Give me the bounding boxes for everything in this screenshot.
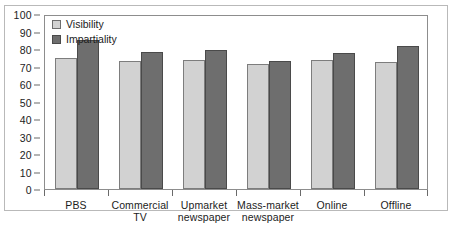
x-axis-category-label: PBS (65, 199, 86, 211)
y-axis-tick-mark (34, 102, 40, 103)
x-axis-category-label: Commercial TV (111, 199, 168, 223)
chart-legend: Visibility Impartiality (52, 18, 117, 46)
y-axis-tick-mark (34, 50, 40, 51)
y-axis-tick-label: 60 (20, 80, 32, 91)
bar-visibility (119, 61, 141, 189)
x-axis-tick-mark (172, 190, 173, 196)
y-axis-tick-mark (34, 32, 40, 33)
x-axis-tick-mark (427, 190, 428, 196)
y-axis-tick-label: 90 (20, 27, 32, 38)
bar-chart-figure: 0102030405060708090100 PBSCommercial TVU… (0, 0, 452, 233)
bar-impartiality (77, 40, 99, 189)
legend-swatch-impartiality (52, 35, 61, 44)
y-axis-tick-mark (34, 15, 40, 16)
bar-impartiality (141, 52, 163, 189)
y-axis-tick-mark (34, 67, 40, 68)
legend-label-visibility: Visibility (66, 19, 104, 30)
legend-entry-visibility: Visibility (52, 18, 117, 31)
bar-visibility (183, 60, 205, 189)
x-axis-category-label: Upmarket newspaper (178, 199, 230, 223)
x-axis: PBSCommercial TVUpmarket newspaperMass-m… (44, 190, 428, 233)
y-axis-tick-mark (34, 137, 40, 138)
x-axis-tick-mark (300, 190, 301, 196)
y-axis-tick-mark (34, 172, 40, 173)
y-axis-tick-label: 40 (20, 115, 32, 126)
y-axis-tick-label: 100 (14, 10, 32, 21)
y-axis-tick-label: 30 (20, 132, 32, 143)
x-axis-category-label: Mass-market newspaper (237, 199, 299, 223)
x-axis-tick-mark (236, 190, 237, 196)
y-axis-tick-mark (34, 190, 40, 191)
bar-impartiality (333, 53, 355, 189)
bar-impartiality (397, 46, 419, 190)
x-axis-tick-mark (44, 190, 45, 196)
y-axis-tick-label: 20 (20, 150, 32, 161)
bar-visibility (311, 60, 333, 189)
legend-label-impartiality: Impartiality (66, 34, 117, 45)
y-axis-tick-label: 80 (20, 45, 32, 56)
y-axis-tick-label: 0 (26, 185, 32, 196)
x-axis-tick-mark (108, 190, 109, 196)
bar-visibility (55, 58, 77, 189)
bar-visibility (375, 62, 397, 189)
x-axis-category-label: Online (317, 199, 348, 211)
legend-swatch-visibility (52, 20, 61, 29)
bar-impartiality (205, 50, 227, 189)
y-axis-tick-label: 10 (20, 167, 32, 178)
y-axis-tick-mark (34, 85, 40, 86)
legend-entry-impartiality: Impartiality (52, 33, 117, 46)
y-axis-tick-mark (34, 155, 40, 156)
bar-visibility (247, 64, 269, 189)
bar-impartiality (269, 61, 291, 189)
y-axis: 0102030405060708090100 (0, 0, 44, 233)
y-axis-tick-mark (34, 120, 40, 121)
x-axis-tick-mark (364, 190, 365, 196)
y-axis-tick-label: 70 (20, 62, 32, 73)
y-axis-tick-label: 50 (20, 97, 32, 108)
x-axis-category-label: Offline (381, 199, 412, 211)
